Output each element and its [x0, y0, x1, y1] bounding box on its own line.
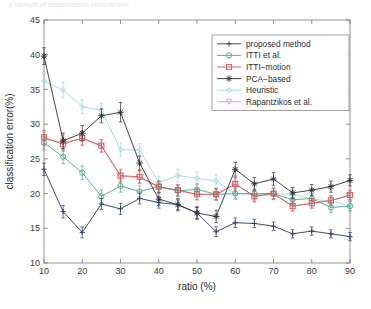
x-tick-label: 10 [39, 266, 49, 276]
data-point-plus [328, 231, 333, 236]
y-tick-label: 25 [30, 154, 40, 164]
data-point-star [226, 75, 232, 81]
y-tick-label: 30 [30, 119, 40, 129]
legend-label: Heuristic [246, 85, 278, 95]
y-tick-label: 45 [30, 15, 40, 25]
error-bar [61, 82, 65, 97]
error-bar [61, 150, 65, 164]
y-tick-label: 20 [30, 189, 40, 199]
data-point-star [289, 190, 295, 196]
x-tick-label: 50 [192, 266, 202, 276]
figure-container: a sample of experiments comparison 10203… [0, 0, 371, 309]
data-point-star [270, 176, 276, 182]
x-tick-label: 40 [154, 266, 164, 276]
data-point-star [136, 160, 142, 166]
x-tick-label: 60 [230, 266, 240, 276]
data-point-plus [290, 231, 295, 236]
chart-legend: proposed methodITTI et al.ITTI−motionPCA… [212, 35, 349, 111]
x-tick-label: 80 [307, 266, 317, 276]
legend-label: Rapantzikos et al. [246, 97, 312, 107]
classification-error-chart: 1020304050607080901015202530354045 propo… [0, 0, 371, 309]
data-point-star [309, 187, 315, 193]
data-point-plus [252, 221, 257, 226]
data-point-star [347, 177, 353, 183]
data-point-star [213, 213, 219, 219]
data-point-plus [137, 196, 142, 201]
data-point-plus [271, 224, 276, 229]
data-point-star [60, 138, 66, 144]
data-point-plus [233, 220, 238, 225]
data-point-plus [347, 234, 352, 239]
y-axis-label: classification error(%) [4, 93, 15, 189]
x-axis-label: ratio (%) [178, 281, 216, 292]
legend-label: proposed method [246, 39, 311, 49]
data-point-star [79, 130, 85, 136]
data-point-plus [99, 201, 104, 206]
data-point-star [98, 113, 104, 119]
data-point-star [41, 53, 47, 59]
data-point-plus [118, 206, 123, 211]
y-tick-label: 10 [30, 258, 40, 268]
x-tick-label: 20 [77, 266, 87, 276]
data-point-plus [41, 167, 46, 172]
y-tick-label: 40 [30, 50, 40, 60]
data-point-star [251, 181, 257, 187]
data-point-star [117, 109, 123, 115]
data-point-star [328, 183, 334, 189]
y-tick-label: 35 [30, 85, 40, 95]
error-bar [42, 73, 46, 88]
legend-label: PCA−based [246, 74, 291, 84]
legend-label: ITTI et al. [246, 50, 281, 60]
x-tick-label: 30 [115, 266, 125, 276]
y-tick-label: 15 [30, 223, 40, 233]
x-tick-label: 90 [345, 266, 355, 276]
top-text-fragment: a sample of experiments comparison [8, 0, 363, 9]
x-tick-label: 70 [268, 266, 278, 276]
error-bar [80, 166, 84, 180]
legend-label: ITTI−motion [246, 62, 291, 72]
data-point-plus [309, 228, 314, 233]
data-point-star [232, 166, 238, 172]
